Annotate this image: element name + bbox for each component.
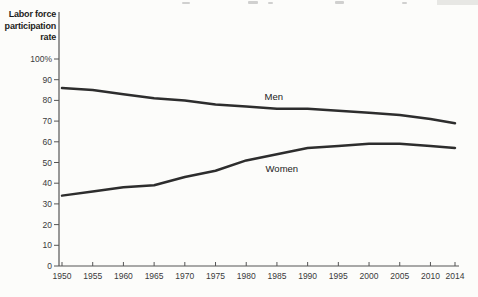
- series-line-women: [62, 144, 455, 196]
- y-tick-label: 0: [47, 261, 52, 271]
- series-label-women: Women: [266, 163, 299, 174]
- x-tick-label: 1960: [114, 271, 133, 281]
- y-tick-label: 40: [43, 178, 53, 188]
- x-tick-label: 2005: [390, 271, 409, 281]
- x-tick-label: 1975: [206, 271, 225, 281]
- y-tick-label: 80: [43, 95, 53, 105]
- y-tick-label: 50: [43, 158, 53, 168]
- x-tick-label: 1950: [53, 271, 72, 281]
- x-tick-label: 1985: [267, 271, 286, 281]
- chart-svg: 0102030405060708090100%19501955196019651…: [0, 0, 478, 297]
- x-tick-label: 2010: [421, 271, 440, 281]
- series-line-men: [62, 88, 455, 123]
- page: { "chart_data": { "type": "line", "title…: [0, 0, 478, 297]
- x-tick-label: 1980: [237, 271, 256, 281]
- x-tick-label: 1970: [175, 271, 194, 281]
- x-tick-label: 1965: [145, 271, 164, 281]
- y-tick-label: 90: [43, 75, 53, 85]
- series-label-men: Men: [265, 91, 283, 102]
- y-tick-label: 60: [43, 137, 53, 147]
- x-tick-label: 1990: [298, 271, 317, 281]
- x-tick-label: 2000: [360, 271, 379, 281]
- y-tick-label: 70: [43, 116, 53, 126]
- x-tick-label: 1995: [329, 271, 348, 281]
- y-tick-label: 30: [43, 199, 53, 209]
- x-tick-label: 2014: [446, 271, 465, 281]
- y-tick-label: 20: [43, 220, 53, 230]
- labor-force-participation-figure: Labor force participation rate 010203040…: [0, 0, 478, 297]
- y-tick-label: 10: [43, 240, 53, 250]
- y-tick-label: 100%: [30, 54, 52, 64]
- x-tick-label: 1955: [83, 271, 102, 281]
